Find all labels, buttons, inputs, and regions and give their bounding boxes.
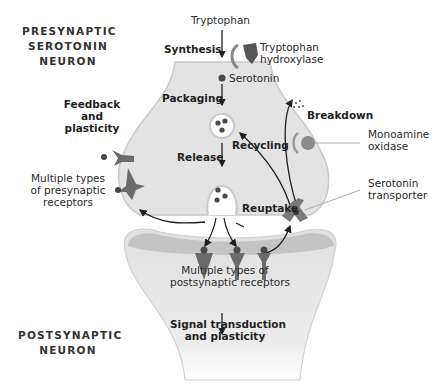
serotonin-label: Serotonin — [229, 72, 279, 84]
feedback-label: Feedbackandplasticity — [62, 98, 122, 134]
presynaptic-title: PRESYNAPTICSEROTONINNEURON — [22, 24, 114, 69]
recycling-label: Recycling — [232, 139, 289, 151]
vesicle — [210, 114, 234, 138]
packaging-label: Packaging — [162, 92, 223, 104]
release-label: Release — [177, 151, 223, 163]
postsynaptic-title: POSTSYNAPTICNEURON — [18, 328, 118, 358]
postsyn-receptors-label: Multiple types ofpostsynaptic receptors — [170, 264, 280, 288]
mao-icon — [301, 136, 315, 150]
enzyme-label: Tryptophanhydroxylase — [260, 41, 323, 65]
mao-label: Monoamineoxidase — [368, 128, 429, 152]
serotonin-dot — [219, 75, 226, 82]
reuptake-label: Reuptake — [242, 202, 298, 214]
enzyme-icon — [243, 43, 258, 64]
tryptophan-label: Tryptophan — [191, 14, 250, 26]
synthesis-label: Synthesis — [164, 43, 222, 55]
transporter-label: Serotonintransporter — [368, 177, 427, 201]
breakdown-label: Breakdown — [307, 109, 373, 121]
signal-label: Signal transductionand plasticity — [170, 318, 280, 342]
presyn-receptors-label: Multiple typesof presynapticreceptors — [28, 172, 108, 208]
